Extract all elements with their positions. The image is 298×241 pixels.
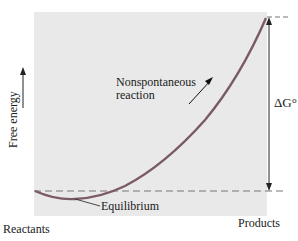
y-axis-label: Free energy xyxy=(6,91,21,148)
delta-g-arrowhead-down xyxy=(266,183,272,191)
products-label: Products xyxy=(238,217,280,230)
equilibrium-leader-line xyxy=(75,199,100,206)
delta-g-arrowhead-up xyxy=(266,17,272,25)
delta-g-label: ΔG° xyxy=(274,96,297,109)
reactants-label: Reactants xyxy=(3,223,50,236)
reaction-direction-arrowhead xyxy=(205,77,213,85)
curve-annotation-line2: reaction xyxy=(116,89,155,102)
free-energy-curve xyxy=(35,18,266,199)
y-axis-arrowhead xyxy=(20,67,26,75)
equilibrium-label: Equilibrium xyxy=(101,200,159,213)
